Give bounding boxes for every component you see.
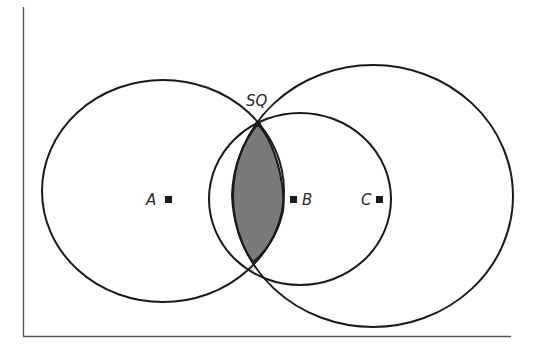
label-b: B [302,191,312,209]
center-b-marker [290,196,297,203]
label-sq: SQ [246,92,268,110]
label-c: C [361,191,372,209]
shaded-intersection-region [232,124,284,262]
center-a-marker [165,196,172,203]
center-c-marker [376,196,383,203]
label-a: A [145,191,156,209]
sq-point [255,121,261,127]
venn-diagram: SQ A B C [0,0,541,353]
